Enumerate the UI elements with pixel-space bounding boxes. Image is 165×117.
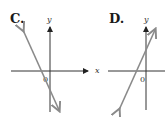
graph-c-y-label: y	[46, 15, 52, 24]
graph-c: C. D. y 0 x y 0	[0, 0, 165, 117]
graph-d-y-label: y	[143, 15, 149, 24]
coordinate-graphs: y 0 x y 0	[0, 0, 165, 117]
graph-d-origin-label: 0	[140, 75, 145, 84]
graph-c-axes: y 0	[11, 15, 88, 112]
graph-d-axes: y 0	[108, 15, 165, 110]
graph-c-line	[23, 30, 59, 110]
graph-d-line	[119, 30, 155, 110]
graph-c-x-label: x	[95, 66, 100, 75]
